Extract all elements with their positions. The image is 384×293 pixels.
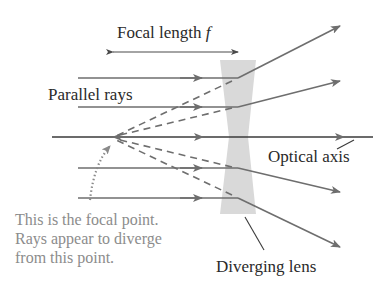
focal-length-symbol: f — [206, 23, 211, 42]
virtual-ray-extensions — [116, 81, 232, 195]
focal-length-label: Focal length f — [117, 24, 211, 41]
diverging-lens-diagram: Focal length f Parallel rays Optical axi… — [0, 0, 384, 293]
lens-leader — [245, 217, 264, 250]
focal-point-note: This is the focal point. Rays appear to … — [15, 210, 162, 267]
focal-point-note-line-3: from this point. — [15, 248, 162, 267]
focal-point-note-line-2: Rays appear to diverge — [15, 229, 162, 248]
parallel-rays-label: Parallel rays — [48, 86, 133, 103]
optical-axis-label: Optical axis — [268, 148, 350, 165]
focal-point-note-line-1: This is the focal point. — [15, 210, 162, 229]
focal-point-pointer — [90, 146, 110, 200]
diverging-lens-label: Diverging lens — [216, 258, 316, 275]
